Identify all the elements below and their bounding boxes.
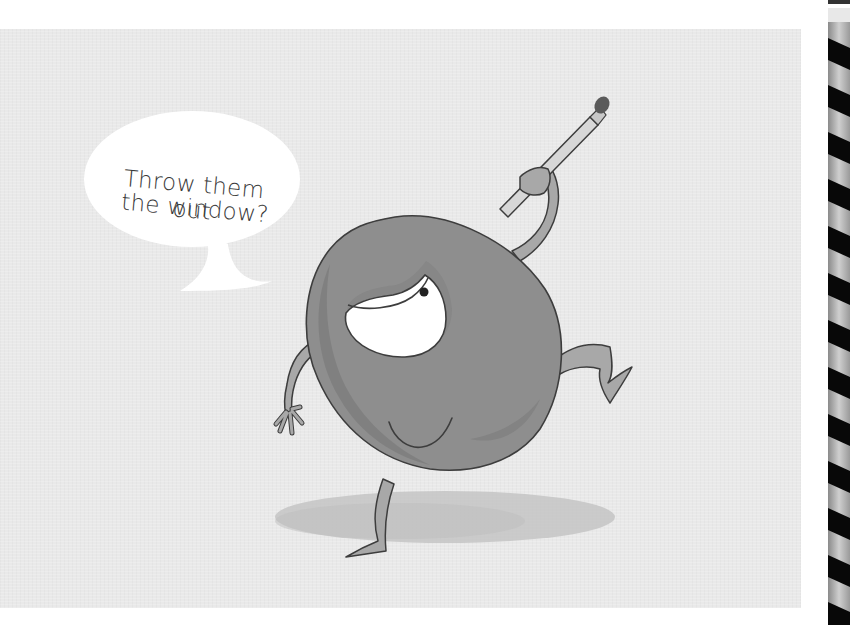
character-pupil [420, 288, 429, 297]
spiral-coils [828, 0, 850, 625]
character-right-leg [553, 345, 632, 403]
illustration-panel: Throw them out the window? [0, 29, 801, 608]
spiral-binding [828, 0, 850, 625]
ground-shadow [275, 491, 615, 543]
illustration [0, 29, 801, 608]
book-page: Throw them out the window? [0, 0, 828, 625]
character-hand-holding-pencil [520, 167, 550, 195]
